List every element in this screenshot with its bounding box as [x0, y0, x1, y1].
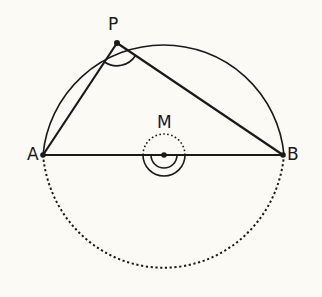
- label-p: P: [108, 16, 118, 33]
- segment-pb: [117, 43, 283, 155]
- point-p: [114, 40, 120, 46]
- circle-lower-arc-dotted: [43, 155, 284, 268]
- diagram-canvas: A B P M: [0, 0, 322, 297]
- label-b: B: [287, 146, 299, 163]
- label-m: M: [157, 114, 172, 131]
- point-m: [161, 152, 167, 158]
- point-a: [40, 152, 46, 158]
- point-b: [280, 152, 286, 158]
- angle-mark-m-dotted: [143, 134, 185, 155]
- segment-ap: [43, 43, 117, 155]
- label-a: A: [27, 146, 39, 163]
- angle-mark-m-outer: [143, 155, 185, 176]
- thales-diagram: [0, 0, 322, 297]
